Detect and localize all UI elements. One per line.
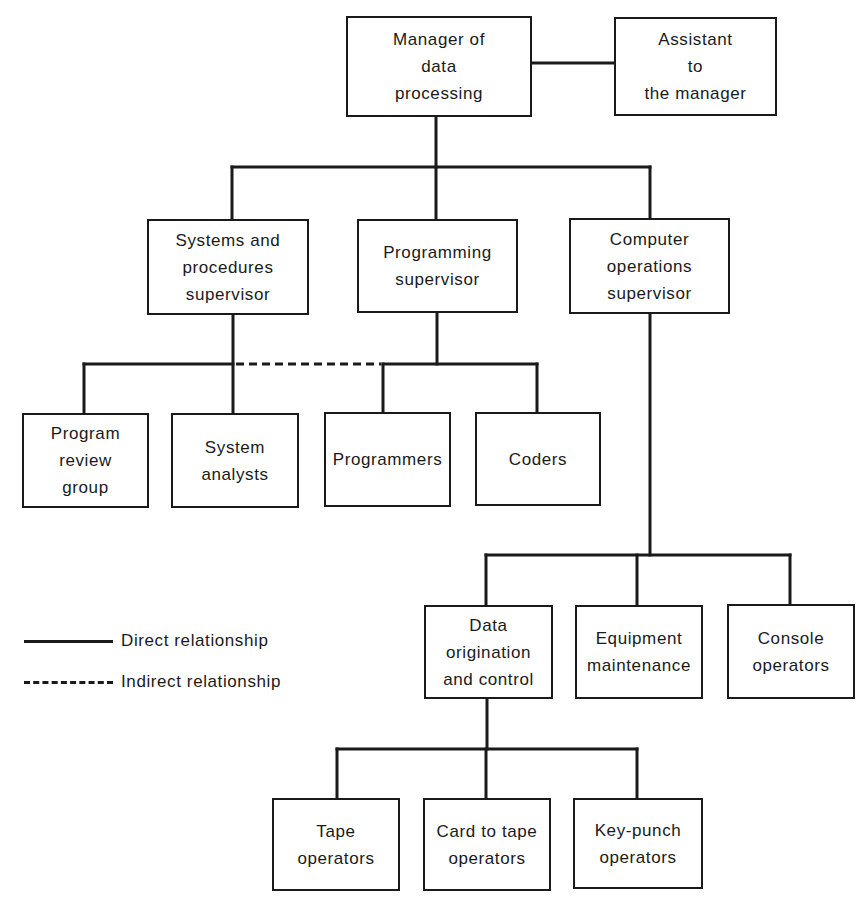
node-label: Programmers [333,446,443,473]
node-card-to-tape-operators: Card to tape operators [423,798,551,891]
legend-item-indirect: Indirect relationship [24,667,281,697]
node-label: Data origination and control [443,612,534,693]
dashed-line-icon [24,681,113,684]
node-equipment-maintenance: Equipment maintenance [575,605,703,699]
node-label: Manager of data processing [393,26,485,107]
node-label: System analysts [201,434,268,488]
node-label: Tape operators [297,818,374,872]
node-assistant-to-manager: Assistant to the manager [614,17,777,116]
node-tape-operators: Tape operators [272,798,400,891]
node-label: Assistant to the manager [644,26,746,107]
node-label: Console operators [752,625,829,679]
node-label: Program review group [51,420,120,501]
node-data-origination-and-control: Data origination and control [424,605,553,699]
node-label: Computer operations supervisor [607,226,692,307]
node-label: Equipment maintenance [587,625,691,679]
legend-label-direct: Direct relationship [121,631,268,651]
legend-item-direct: Direct relationship [24,626,281,656]
node-keypunch-operators: Key-punch operators [573,798,703,889]
node-programming-supervisor: Programming supervisor [357,219,518,313]
node-label: Key-punch operators [595,817,682,871]
node-computer-operations-supervisor: Computer operations supervisor [569,218,730,314]
legend: Direct relationship Indirect relationshi… [24,626,281,708]
node-manager-of-data-processing: Manager of data processing [346,16,532,117]
node-program-review-group: Program review group [22,413,149,508]
legend-label-indirect: Indirect relationship [121,672,281,692]
node-label: Systems and procedures supervisor [176,227,281,308]
node-system-analysts: System analysts [171,413,299,508]
node-coders: Coders [475,412,601,506]
node-label: Programming supervisor [383,239,492,293]
node-systems-procedures-supervisor: Systems and procedures supervisor [147,219,309,315]
node-programmers: Programmers [324,412,451,507]
node-console-operators: Console operators [727,604,855,699]
node-label: Card to tape operators [437,818,538,872]
node-label: Coders [509,446,567,473]
solid-line-icon [24,640,113,643]
